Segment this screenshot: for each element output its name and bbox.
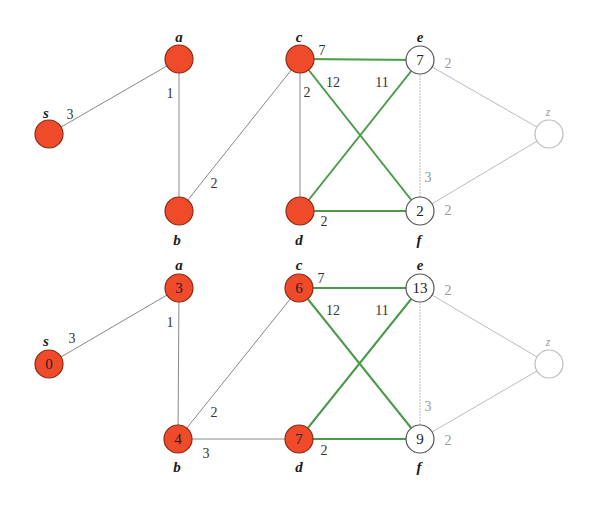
edge-weight-a-b: 1	[167, 315, 174, 330]
node-label-c: c	[296, 257, 303, 273]
node-distance-d: 7	[295, 431, 303, 447]
node-z: z	[535, 335, 563, 378]
node-label-d: d	[295, 459, 303, 475]
node-label-z: z	[545, 105, 551, 119]
edge-weight-s-a: 3	[69, 331, 76, 346]
edge-b-c	[178, 288, 299, 439]
edge-weight-d-e: 11	[375, 75, 388, 90]
edge-weight-c-f: 12	[326, 303, 340, 318]
edge-weight-d-e: 11	[375, 303, 388, 318]
node-d: d	[286, 197, 314, 248]
node-circle-s	[35, 120, 63, 148]
node-label-f: f	[417, 459, 424, 475]
edge-weight-b-c: 2	[211, 176, 218, 191]
node-distance-e: 7	[416, 52, 424, 68]
panel-top: 3122712112322sabcd7e2fz	[35, 29, 563, 248]
node-circle-b	[165, 197, 193, 225]
node-c: c	[286, 29, 314, 73]
edge-s-a	[49, 59, 179, 134]
edge-weight-d-f: 2	[321, 214, 328, 229]
node-e: 7e	[406, 29, 434, 74]
node-d: 7d	[285, 425, 313, 475]
node-label-b: b	[173, 232, 181, 248]
edge-e-z	[420, 288, 549, 364]
node-circle-a	[165, 45, 193, 73]
node-label-d: d	[295, 232, 303, 248]
node-label-f: f	[417, 232, 424, 248]
edge-weight-e-f: 3	[425, 170, 432, 185]
edge-weight-f-z: 2	[445, 203, 452, 218]
node-label-b: b	[173, 459, 181, 475]
node-label-a: a	[175, 257, 183, 273]
node-label-s: s	[42, 333, 49, 349]
edge-weight-c-f: 12	[326, 75, 340, 90]
edge-f-z	[420, 364, 549, 439]
node-label-e: e	[417, 29, 424, 45]
dijkstra-diagram: 3122712112322sabcd7e2fz 31237121123220s3…	[0, 0, 593, 507]
node-distance-b: 4	[174, 431, 182, 447]
node-b: 4b	[164, 425, 192, 475]
node-f: 2f	[406, 197, 434, 248]
node-label-s: s	[42, 105, 49, 121]
node-label-e: e	[417, 257, 424, 273]
node-label-c: c	[296, 29, 303, 45]
node-label-z: z	[545, 335, 551, 349]
node-s: 0s	[35, 333, 63, 378]
node-distance-a: 3	[175, 280, 183, 296]
node-distance-s: 0	[45, 356, 53, 372]
node-f: 9f	[406, 425, 434, 475]
edge-s-a	[49, 288, 179, 364]
node-s: s	[35, 105, 63, 148]
edge-b-c	[179, 59, 300, 211]
node-a: 3a	[165, 257, 193, 302]
node-z: z	[535, 105, 563, 148]
node-b: b	[165, 197, 193, 248]
node-distance-f: 2	[416, 203, 424, 219]
node-c: 6c	[285, 257, 313, 302]
node-distance-f: 9	[416, 431, 424, 447]
edge-weight-b-d: 3	[203, 446, 210, 461]
edge-e-z	[420, 60, 549, 134]
node-distance-e: 13	[413, 280, 428, 296]
edge-a-b	[178, 288, 179, 439]
edge-weight-a-b: 1	[167, 86, 174, 101]
edge-f-z	[420, 134, 549, 211]
edge-weight-s-a: 3	[67, 107, 74, 122]
edge-weight-f-z: 2	[445, 433, 452, 448]
node-circle-z	[535, 120, 563, 148]
panel-bottom: 31237121123220s3a4b6c7d13e9fz	[35, 257, 563, 475]
edge-weight-e-z: 2	[445, 283, 452, 298]
edge-c-e	[300, 59, 420, 60]
node-label-a: a	[175, 29, 183, 45]
node-circle-d	[286, 197, 314, 225]
node-circle-c	[286, 45, 314, 73]
node-e: 13e	[406, 257, 434, 302]
edge-weight-e-f: 3	[425, 399, 432, 414]
edge-weight-e-z: 2	[445, 56, 452, 71]
edge-weight-d-f: 2	[321, 443, 328, 458]
edge-weight-c-e: 7	[319, 43, 326, 58]
node-circle-z	[535, 350, 563, 378]
node-distance-c: 6	[295, 280, 303, 296]
edge-weight-c-e: 7	[318, 271, 325, 286]
edge-weight-c-d: 2	[304, 85, 311, 100]
edge-weight-b-c: 2	[211, 405, 218, 420]
node-a: a	[165, 29, 193, 73]
